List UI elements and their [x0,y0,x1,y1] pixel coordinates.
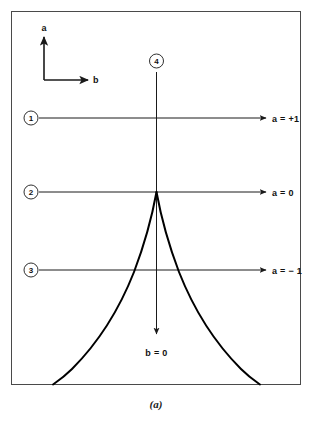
marker-1-label: 1 [29,114,34,123]
ray-4-group: 4 b = 0 [145,54,167,358]
ray-1-group: 1 a = +1 [24,111,299,125]
ray-4-value-label: b = 0 [145,348,167,358]
bifurcation-diagram: a b 4 b = 0 1 a = +1 2 a = 0 3 [0,0,312,424]
ray-3-group: 3 a = − 1 [24,263,302,277]
marker-3-label: 3 [29,266,34,275]
ray-2-group: 2 a = 0 [24,185,294,199]
cusp-curve-left-branch [53,192,157,385]
ray-3-value-label: a = − 1 [272,266,302,276]
axis-label-a: a [41,23,47,33]
marker-4-label: 4 [154,57,159,66]
axis-indicator: a b [41,23,99,85]
marker-2-label: 2 [29,188,34,197]
cusp-curve-right-branch [157,192,261,385]
ray-1-value-label: a = +1 [272,114,299,124]
figure-container: a b 4 b = 0 1 a = +1 2 a = 0 3 [0,0,312,424]
axis-label-b: b [93,75,99,85]
ray-2-value-label: a = 0 [272,188,294,198]
figure-caption: (a) [0,398,312,410]
